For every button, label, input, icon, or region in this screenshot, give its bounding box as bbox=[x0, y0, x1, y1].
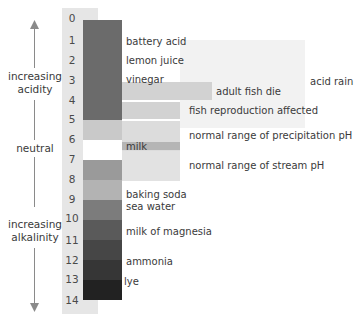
substance-label-lye: lye bbox=[124, 276, 139, 288]
substance-label-ammonia: ammonia bbox=[126, 256, 173, 268]
ph-band-12-13 bbox=[83, 260, 122, 280]
substance-label-milk: milk bbox=[126, 141, 147, 153]
range-label-precipitation-ph: normal range of precipitation pH bbox=[189, 130, 352, 142]
increasing-alkalinity-label: increasing alkalinity bbox=[0, 218, 70, 244]
ph-number: 3 bbox=[63, 74, 81, 86]
ph-number: 8 bbox=[63, 173, 81, 185]
ph-number: 6 bbox=[63, 133, 81, 145]
ph-number: 5 bbox=[63, 113, 81, 125]
ph-band-13-14 bbox=[83, 280, 122, 300]
fish-reproduction-bar bbox=[122, 102, 180, 119]
acidity-arrow-line-upper bbox=[34, 28, 35, 68]
substance-label-lemon-juice: lemon juice bbox=[126, 55, 184, 67]
neutral-label: neutral bbox=[0, 142, 70, 155]
ph-number: 12 bbox=[63, 254, 81, 266]
range-label-acid-rain: acid rain bbox=[310, 76, 353, 88]
ph-number: 13 bbox=[63, 273, 81, 285]
arrow-down-icon bbox=[29, 302, 40, 314]
substance-label-baking-soda: baking soda bbox=[126, 189, 187, 201]
substance-label-milk-of-magnesia: milk of magnesia bbox=[126, 226, 212, 238]
ph-number: 14 bbox=[63, 294, 81, 306]
stream-ph-bar bbox=[122, 151, 180, 181]
substance-label-vinegar: vinegar bbox=[126, 74, 164, 86]
substance-label-battery-acid: battery acid bbox=[126, 36, 186, 48]
ph-number: 1 bbox=[63, 34, 81, 46]
ph-band-7-8 bbox=[83, 160, 122, 180]
increasing-acidity-label: increasing acidity bbox=[0, 70, 70, 96]
ph-number: 9 bbox=[63, 193, 81, 205]
ph-number: 7 bbox=[63, 153, 81, 165]
alkalinity-arrow-line-lower bbox=[34, 248, 35, 306]
acidity-arrow-line-lower bbox=[34, 100, 35, 140]
ph-band-5-6 bbox=[83, 120, 122, 140]
ph-number: 10 bbox=[63, 212, 81, 224]
ph-band-10-11 bbox=[83, 220, 122, 240]
range-label-stream-ph: normal range of stream pH bbox=[189, 160, 324, 172]
ph-number: 4 bbox=[63, 94, 81, 106]
substance-label-sea-water: sea water bbox=[126, 201, 175, 213]
ph-number: 0 bbox=[63, 12, 81, 24]
alkalinity-arrow-line-upper bbox=[34, 157, 35, 207]
ph-band-0-5 bbox=[83, 20, 122, 120]
ph-number: 2 bbox=[63, 54, 81, 66]
range-label-adult-fish-die: adult fish die bbox=[216, 86, 281, 98]
ph-band-6-7 bbox=[83, 140, 122, 160]
ph-band-9-10 bbox=[83, 200, 122, 220]
ph-band-8-9 bbox=[83, 180, 122, 200]
ph-band-11-12 bbox=[83, 240, 122, 260]
ph-number: 11 bbox=[63, 234, 81, 246]
range-label-fish-reproduction: fish reproduction affected bbox=[189, 105, 318, 117]
